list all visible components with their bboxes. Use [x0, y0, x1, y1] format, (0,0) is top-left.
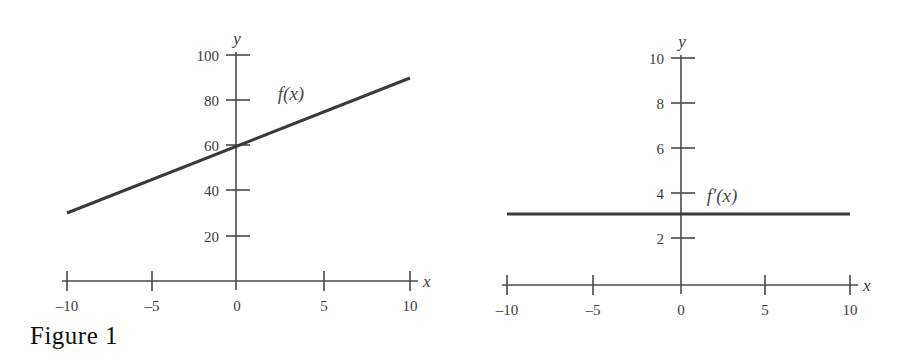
left-plot-x-tick-label-5: 5	[320, 298, 328, 314]
left-plot-y-tick-label-80: 80	[204, 93, 219, 109]
figure-svg: –10 –5 0 5 10 100 80 60 40 20 y x f(x)	[0, 0, 915, 362]
left-plot-x-tick-label-neg10: –10	[55, 298, 79, 314]
left-plot: –10 –5 0 5 10 100 80 60 40 20 y x f(x)	[55, 29, 431, 314]
figure-caption: Figure 1	[30, 322, 118, 350]
right-plot-x-tick-label-neg10: –10	[495, 302, 519, 318]
left-plot-x-axis-label: x	[422, 272, 431, 291]
right-plot-y-tick-label-4: 4	[657, 186, 665, 202]
right-plot-y-tick-label-6: 6	[657, 141, 665, 157]
left-plot-y-tick-label-100: 100	[197, 48, 220, 64]
right-plot-x-tick-label-5: 5	[761, 302, 769, 318]
left-plot-x-tick-label-neg5: –5	[144, 298, 160, 314]
right-plot: –10 –5 0 5 10 10 8 6 4 2 y x f′(x)	[495, 32, 871, 318]
right-plot-y-tick-label-2: 2	[657, 231, 665, 247]
left-plot-function-line	[67, 78, 410, 213]
left-plot-y-tick-label-60: 60	[204, 138, 219, 154]
left-plot-x-tick-label-0: 0	[233, 298, 241, 314]
left-plot-function-label: f(x)	[278, 83, 304, 105]
right-plot-y-axis-label: y	[676, 32, 686, 51]
left-plot-y-tick-label-40: 40	[204, 183, 219, 199]
right-plot-x-tick-label-10: 10	[843, 302, 858, 318]
right-plot-y-tick-label-10: 10	[649, 51, 664, 67]
right-plot-y-ticks	[671, 58, 695, 238]
right-plot-derivative-label: f′(x)	[707, 185, 738, 207]
left-plot-x-tick-label-10: 10	[403, 298, 418, 314]
left-plot-y-tick-label-20: 20	[204, 229, 219, 245]
right-plot-y-tick-label-8: 8	[657, 96, 665, 112]
right-plot-x-tick-label-neg5: –5	[585, 302, 601, 318]
figure-container: –10 –5 0 5 10 100 80 60 40 20 y x f(x)	[0, 0, 915, 362]
left-plot-y-axis-label: y	[231, 29, 241, 48]
right-plot-x-tick-label-0: 0	[677, 302, 685, 318]
right-plot-x-axis-label: x	[862, 276, 871, 295]
